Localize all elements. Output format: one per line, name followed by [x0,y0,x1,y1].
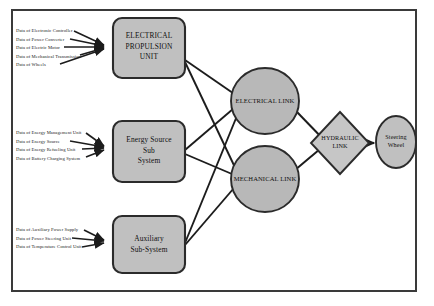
source-label-group-electrical-propulsion: Data of Electronic Controller Data of Po… [16,27,81,69]
source-label: Data of Energy Source [16,138,81,146]
source-label: Data of Temperature Control Unit [16,243,82,251]
node-steering-wheel[interactable] [376,116,416,168]
source-label: Data of Mechanical Transmission [16,53,81,61]
source-label: Data of Energy Refueling Unit [16,146,81,154]
source-label-group-auxiliary: Data of Auxiliary Power Supply Data of P… [16,226,82,251]
source-label: Data of Energy Management Unit [16,129,81,137]
node-mechanical-link[interactable] [231,146,299,212]
source-label: Data of Power Steering Unit [16,235,82,243]
node-electrical-propulsion-unit[interactable] [113,18,185,78]
node-energy-source-sub-system[interactable] [113,121,185,182]
node-hydraulic-link[interactable] [311,112,369,174]
node-electrical-link[interactable] [231,68,299,134]
source-label: Data of Power Converter [16,36,81,44]
source-label: Data of Auxiliary Power Supply [16,226,82,234]
source-label: Data of Electronic Controller [16,27,81,35]
node-auxiliary-sub-system[interactable] [113,216,185,273]
diagram-page: Data of Electronic Controller Data of Po… [0,0,434,306]
source-label: Data of Wheels [16,61,81,69]
source-label: Data of Battery Charging System [16,155,81,163]
source-label-group-energy-source: Data of Energy Management Unit Data of E… [16,129,81,162]
source-label: Data of Electric Motor [16,44,81,52]
